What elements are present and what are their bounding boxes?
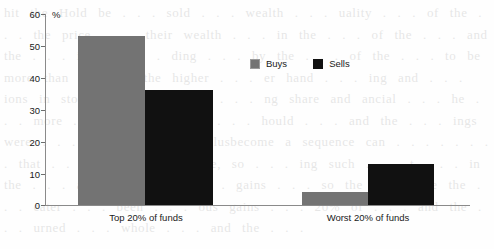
legend-item-buys: Buys — [250, 58, 287, 69]
y-tick-label-0: 0 — [14, 200, 40, 211]
plot-area: % 60 50 40 30 20 10 0 Top 20% of funds W… — [0, 0, 494, 249]
y-tick-label-20: 20 — [14, 137, 40, 148]
bar-sells-worst-20 — [368, 164, 434, 205]
y-tick-mark-50 — [41, 46, 45, 47]
y-axis-line — [45, 14, 46, 206]
category-label-worst-20: Worst 20% of funds — [327, 212, 410, 223]
y-axis-unit-label: % — [52, 9, 60, 20]
legend-item-sells: Sells — [313, 58, 350, 69]
y-tick-label-60: 60 — [14, 9, 40, 20]
chart-legend: Buys Sells — [250, 58, 350, 69]
y-tick-mark-60 — [41, 14, 45, 15]
legend-swatch-sells-icon — [313, 59, 323, 69]
bar-buys-top-20 — [78, 36, 145, 205]
y-tick-mark-0 — [41, 205, 45, 206]
bar-buys-worst-20 — [302, 192, 368, 205]
x-axis-line — [45, 205, 470, 206]
legend-label-buys: Buys — [266, 58, 287, 69]
bar-chart-figure: hit the Hold be . . . sold . . . wealth … — [0, 0, 494, 249]
y-tick-mark-10 — [41, 174, 45, 175]
bar-sells-top-20 — [145, 90, 213, 205]
y-tick-label-10: 10 — [14, 169, 40, 180]
y-tick-label-50: 50 — [14, 41, 40, 52]
y-tick-label-30: 30 — [14, 105, 40, 116]
y-tick-label-40: 40 — [14, 73, 40, 84]
legend-swatch-buys-icon — [250, 59, 260, 69]
legend-label-sells: Sells — [329, 58, 350, 69]
y-tick-mark-20 — [41, 142, 45, 143]
y-tick-mark-40 — [41, 78, 45, 79]
category-label-top-20: Top 20% of funds — [109, 212, 182, 223]
y-tick-mark-30 — [41, 110, 45, 111]
